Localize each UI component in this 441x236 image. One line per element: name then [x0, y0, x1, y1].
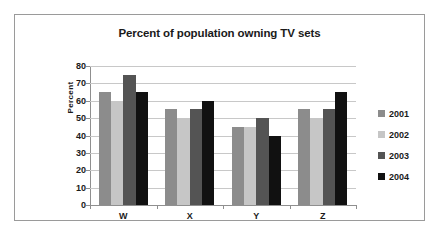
x-tick-mark [356, 205, 357, 209]
bar-y-2003[interactable] [256, 118, 268, 205]
x-axis-label-y: Y [223, 211, 290, 221]
x-tick-mark [90, 205, 91, 209]
bar-z-2002[interactable] [310, 118, 322, 205]
x-tick-mark [290, 205, 291, 209]
y-tick-mark [86, 170, 90, 171]
y-tick-label: 50 [52, 113, 86, 123]
y-tick-label: 30 [52, 148, 86, 158]
legend-item-2004[interactable]: 2004 [378, 166, 438, 187]
bar-group-w [99, 66, 148, 205]
bar-w-2004[interactable] [136, 92, 148, 205]
x-tick-mark [157, 205, 158, 209]
y-tick-label: 40 [52, 131, 86, 141]
bar-x-2002[interactable] [177, 118, 189, 205]
x-axis-label-x: X [157, 211, 224, 221]
legend-label: 2002 [389, 130, 409, 140]
bar-x-2004[interactable] [202, 101, 214, 205]
y-tick-mark [86, 136, 90, 137]
x-axis-label-z: Z [290, 211, 357, 221]
legend-label: 2001 [389, 109, 409, 119]
bar-z-2003[interactable] [323, 109, 335, 205]
bar-group-y [232, 66, 281, 205]
bar-w-2002[interactable] [111, 101, 123, 205]
y-tick-mark [86, 83, 90, 84]
bar-x-2003[interactable] [190, 109, 202, 205]
bar-w-2003[interactable] [123, 75, 135, 205]
bar-z-2004[interactable] [335, 92, 347, 205]
legend-swatch-icon [378, 131, 385, 138]
plot-area [90, 66, 356, 205]
y-tick-mark [86, 101, 90, 102]
chart-title: Percent of population owning TV sets [15, 27, 424, 39]
legend-swatch-icon [378, 152, 385, 159]
y-axis-tick-labels: 80706050403020100 [48, 66, 86, 205]
y-tick-label: 60 [52, 96, 86, 106]
legend-item-2003[interactable]: 2003 [378, 145, 438, 166]
y-tick-mark [86, 118, 90, 119]
y-tick-label: 80 [52, 61, 86, 71]
bar-group-x [165, 66, 214, 205]
legend-item-2002[interactable]: 2002 [378, 124, 438, 145]
legend-swatch-icon [378, 173, 385, 180]
y-tick-mark [86, 66, 90, 67]
y-tick-label: 10 [52, 183, 86, 193]
bar-z-2001[interactable] [298, 109, 310, 205]
x-axis-label-w: W [90, 211, 157, 221]
legend-item-2001[interactable]: 2001 [378, 103, 438, 124]
y-tick-label: 20 [52, 165, 86, 175]
bar-y-2004[interactable] [269, 136, 281, 206]
bar-y-2001[interactable] [232, 127, 244, 205]
y-tick-label: 0 [52, 200, 86, 210]
y-tick-label: 70 [52, 78, 86, 88]
x-tick-mark [223, 205, 224, 209]
bar-w-2001[interactable] [99, 92, 111, 205]
legend-label: 2003 [389, 151, 409, 161]
legend-label: 2004 [389, 172, 409, 182]
y-tick-mark [86, 188, 90, 189]
bar-group-z [298, 66, 347, 205]
legend-swatch-icon [378, 110, 385, 117]
bar-x-2001[interactable] [165, 109, 177, 205]
bar-y-2002[interactable] [244, 127, 256, 205]
y-tick-mark [86, 153, 90, 154]
chart-frame: Percent of population owning TV sets Per… [14, 14, 425, 221]
chart-legend: 2001200220032004 [378, 103, 438, 187]
